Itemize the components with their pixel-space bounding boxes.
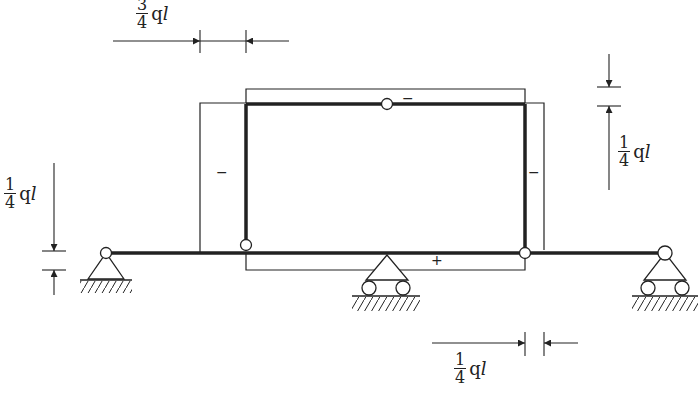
right-column-hinge xyxy=(520,248,531,259)
hinges xyxy=(241,99,531,259)
structure-members xyxy=(106,104,665,253)
bottom-member-sign: + xyxy=(431,252,443,268)
top-member-sign: − xyxy=(402,90,414,106)
middle-roller-support xyxy=(352,255,420,311)
left-column-sign: − xyxy=(216,164,228,180)
frame-diagram xyxy=(0,0,700,397)
top-force-label: 3 4 ql xyxy=(136,0,168,31)
right-force-arrows xyxy=(597,54,621,190)
bottom-force-label: 1 4 ql xyxy=(454,351,486,386)
fraction: 1 4 xyxy=(454,351,466,386)
fraction: 1 4 xyxy=(4,176,16,211)
top-force-arrows xyxy=(113,30,289,53)
left-force-arrows xyxy=(42,163,66,295)
right-force-label: 1 4 ql xyxy=(618,134,650,169)
top-hinge xyxy=(382,99,393,110)
left-force-label: 1 4 ql xyxy=(4,176,36,211)
right-roller-support xyxy=(632,246,698,311)
left-column-hinge xyxy=(241,240,252,251)
fraction: 3 4 xyxy=(136,0,148,31)
fraction: 1 4 xyxy=(618,134,630,169)
right-column-sign: − xyxy=(528,164,540,180)
